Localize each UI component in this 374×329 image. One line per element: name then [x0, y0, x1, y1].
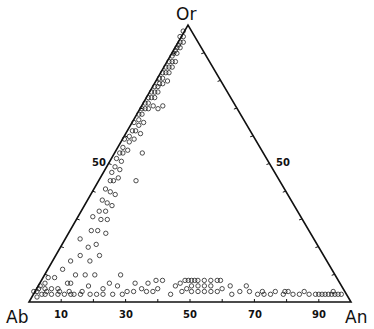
data-point — [83, 273, 87, 277]
data-point — [43, 281, 47, 285]
data-point — [103, 187, 107, 191]
data-point — [115, 284, 119, 288]
data-point — [196, 284, 200, 288]
tick-mark — [283, 191, 286, 192]
data-point — [161, 104, 165, 108]
data-point — [189, 284, 193, 288]
data-point — [215, 289, 219, 293]
data-point — [121, 145, 125, 149]
data-point — [69, 281, 73, 285]
data-point — [144, 289, 148, 293]
data-point — [127, 140, 131, 144]
data-point — [156, 107, 160, 111]
tick-mark — [299, 219, 302, 220]
data-point — [189, 289, 193, 293]
data-point — [100, 198, 104, 202]
data-point — [93, 273, 97, 277]
tick-mark — [332, 274, 335, 275]
data-point — [247, 289, 251, 293]
data-point — [255, 292, 259, 296]
data-point — [126, 148, 130, 152]
bottom-tick-label: 70 — [248, 309, 262, 320]
data-point — [118, 167, 122, 171]
data-point — [110, 203, 114, 207]
bottom-tick-label: 50 — [183, 309, 197, 320]
tick-marks — [45, 53, 335, 302]
data-point — [181, 40, 185, 44]
data-point — [108, 190, 112, 194]
data-point — [86, 245, 90, 249]
data-point — [78, 253, 82, 257]
data-point — [209, 284, 213, 288]
data-point — [138, 131, 142, 135]
data-point — [178, 281, 182, 285]
data-point — [78, 237, 82, 241]
data-point — [134, 179, 138, 183]
vertex-label-ab: Ab — [6, 307, 28, 327]
data-point — [86, 284, 90, 288]
data-point — [94, 242, 98, 246]
data-point — [220, 287, 224, 291]
ternary-diagram-svg — [0, 0, 374, 329]
data-point — [196, 289, 200, 293]
data-point — [193, 278, 197, 282]
data-point — [73, 273, 77, 277]
data-point — [167, 71, 171, 75]
vertex-label-or: Or — [176, 4, 196, 24]
tick-mark — [45, 274, 48, 275]
data-point — [165, 79, 169, 83]
data-point — [130, 129, 134, 133]
data-point — [202, 289, 206, 293]
data-point — [101, 292, 105, 296]
data-point — [180, 289, 184, 293]
data-point — [151, 289, 155, 293]
data-point — [273, 289, 277, 293]
data-point — [291, 292, 295, 296]
tick-mark — [201, 53, 204, 54]
ternary-plot: Or Ab An 10 30 50 70 90 50 50 — [0, 0, 374, 329]
data-point — [238, 289, 242, 293]
data-point — [268, 292, 272, 296]
data-point — [108, 179, 112, 183]
data-point — [168, 292, 172, 296]
data-point — [297, 292, 301, 296]
data-point — [49, 287, 53, 291]
tick-mark — [61, 247, 64, 248]
data-point — [209, 278, 213, 282]
data-point — [185, 287, 189, 291]
data-point — [62, 292, 66, 296]
data-point — [218, 278, 222, 282]
data-point — [132, 137, 136, 141]
data-point — [317, 292, 321, 296]
data-point — [137, 118, 141, 122]
data-point — [105, 201, 109, 205]
data-point — [103, 209, 107, 213]
data-point — [91, 215, 95, 219]
data-point — [244, 284, 248, 288]
data-point — [72, 292, 76, 296]
tick-mark — [77, 219, 80, 220]
data-point — [99, 217, 103, 221]
data-point — [161, 82, 165, 86]
tick-mark — [250, 136, 253, 137]
data-point — [105, 217, 109, 221]
data-point — [52, 275, 56, 279]
data-point — [186, 278, 190, 282]
bottom-tick-label: 90 — [312, 309, 326, 320]
data-point — [202, 278, 206, 282]
bottom-tick-label: 10 — [54, 309, 68, 320]
data-point — [131, 289, 135, 293]
data-point — [104, 231, 108, 235]
data-point — [151, 104, 155, 108]
data-point — [110, 170, 114, 174]
data-point — [118, 273, 122, 277]
data-point — [97, 253, 101, 257]
data-point — [88, 259, 92, 263]
data-point — [302, 289, 306, 293]
data-point — [286, 289, 290, 293]
data-point — [170, 65, 174, 69]
right-tick-label: 50 — [276, 157, 290, 168]
data-points — [32, 29, 344, 299]
data-point — [101, 287, 105, 291]
tick-mark — [234, 108, 237, 109]
